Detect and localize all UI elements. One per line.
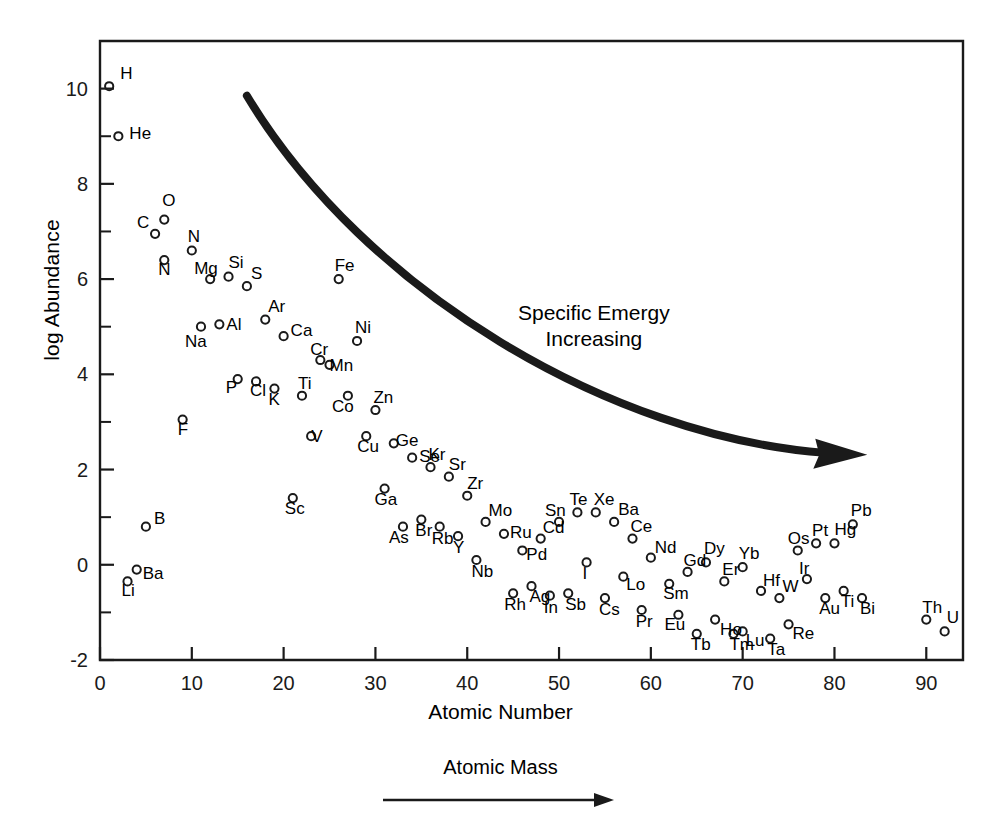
point-label: Nd — [655, 539, 677, 556]
y-axis-title: log Abundance — [40, 170, 64, 410]
data-point — [445, 473, 453, 481]
point-label: Ce — [630, 518, 652, 535]
data-point — [197, 323, 205, 331]
point-label: Yb — [739, 545, 760, 562]
data-point — [224, 273, 232, 281]
point-label: In — [544, 599, 558, 616]
svg-text:0: 0 — [77, 554, 88, 576]
point-label: Si — [229, 254, 244, 271]
atomic-mass-arrow — [383, 793, 614, 807]
point-label: K — [268, 391, 279, 408]
data-point — [610, 518, 618, 526]
point-label: Mo — [489, 502, 513, 519]
svg-text:6: 6 — [77, 268, 88, 290]
point-label: Kr — [429, 446, 446, 463]
point-label: As — [389, 529, 409, 546]
point-label: Sb — [565, 596, 586, 613]
point-label: Al — [226, 316, 241, 333]
svg-text:50: 50 — [548, 672, 570, 694]
x-axis-title: Atomic Number — [0, 700, 1001, 724]
point-label: Th — [922, 599, 942, 616]
svg-text:90: 90 — [915, 672, 937, 694]
point-label: Dy — [704, 540, 725, 557]
point-label: Mg — [194, 260, 218, 277]
point-label: Gd — [684, 552, 707, 569]
point-label: Y — [453, 539, 464, 556]
point-label: Er — [722, 561, 739, 578]
svg-text:40: 40 — [456, 672, 478, 694]
data-point — [518, 546, 526, 554]
point-label: Ta — [767, 641, 785, 658]
point-label: Re — [793, 625, 815, 642]
data-point — [500, 530, 508, 538]
point-label: Ru — [510, 524, 532, 541]
point-label: He — [129, 125, 151, 142]
data-point — [261, 315, 269, 323]
data-point — [830, 539, 838, 547]
point-label: Rh — [504, 596, 526, 613]
point-label: F — [178, 421, 188, 438]
point-label: Cr — [310, 341, 328, 358]
point-label: H — [120, 65, 132, 82]
point-label: Fe — [335, 257, 355, 274]
point-label: Cd — [543, 519, 565, 536]
data-point — [463, 492, 471, 500]
svg-text:80: 80 — [823, 672, 845, 694]
point-label: B — [154, 510, 165, 527]
point-label: Bi — [860, 600, 875, 617]
point-label: O — [162, 192, 175, 209]
point-label: Cu — [357, 438, 379, 455]
point-label: W — [782, 578, 798, 595]
point-label: Ti — [298, 375, 312, 392]
point-label: Ti — [841, 593, 855, 610]
point-label: N — [158, 261, 170, 278]
svg-text:2: 2 — [77, 459, 88, 481]
data-point — [188, 246, 196, 254]
point-label: Ar — [268, 298, 285, 315]
data-point — [151, 230, 159, 238]
svg-text:20: 20 — [272, 672, 294, 694]
point-label: Au — [819, 600, 840, 617]
data-point — [739, 563, 747, 571]
data-point — [353, 337, 361, 345]
data-point — [573, 508, 581, 516]
point-label: Pr — [636, 613, 653, 630]
svg-text:70: 70 — [732, 672, 754, 694]
point-label: Zn — [373, 389, 393, 406]
point-label: Li — [122, 582, 135, 599]
point-label: Lo — [626, 576, 645, 593]
data-point — [114, 132, 122, 140]
data-point — [160, 215, 168, 223]
abundance-chart-figure: 0102030405060708090-20246810 log Abundan… — [0, 0, 1001, 827]
point-label: Pt — [812, 522, 828, 539]
svg-text:30: 30 — [364, 672, 386, 694]
data-point — [243, 282, 251, 290]
svg-text:-2: -2 — [70, 649, 88, 671]
point-label: Ni — [355, 319, 371, 336]
point-label: Lu — [746, 632, 765, 649]
point-label: Zr — [467, 475, 483, 492]
point-label: N — [188, 228, 200, 245]
point-label: Br — [415, 522, 432, 539]
point-label: U — [947, 609, 959, 626]
point-label: C — [137, 214, 149, 231]
point-label: Ir — [799, 560, 809, 577]
point-label: Cs — [599, 601, 620, 618]
data-point — [408, 454, 416, 462]
svg-text:10: 10 — [66, 78, 88, 100]
point-label: S — [251, 265, 262, 282]
point-label: Tb — [691, 636, 711, 653]
data-point — [628, 534, 636, 542]
point-label: Hg — [834, 521, 856, 538]
data-point — [784, 620, 792, 628]
data-point — [711, 615, 719, 623]
point-label: I — [583, 565, 588, 582]
point-label: Mn — [330, 357, 354, 374]
data-point — [592, 508, 600, 516]
point-label: P — [226, 379, 237, 396]
atomic-mass-label: Atomic Mass — [0, 756, 1001, 779]
point-label: Ge — [396, 432, 419, 449]
point-label: Co — [332, 398, 354, 415]
axis-tick-labels: 0102030405060708090-20246810 — [66, 78, 938, 694]
data-point — [298, 392, 306, 400]
